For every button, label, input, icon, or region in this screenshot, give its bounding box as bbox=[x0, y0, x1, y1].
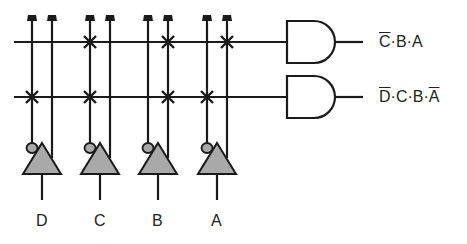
arrow-cap-icon bbox=[27, 15, 37, 21]
arrow-cap-icon bbox=[85, 15, 95, 21]
arrow-cap-icon bbox=[143, 15, 153, 21]
and-gate-icon bbox=[287, 21, 335, 63]
term-mid: ·C·B· bbox=[391, 88, 429, 105]
input-label-b: B bbox=[152, 213, 163, 229]
input-label-d: D bbox=[36, 213, 48, 229]
arrow-cap-icon bbox=[47, 15, 57, 21]
arrow-cap-icon bbox=[163, 15, 173, 21]
term-d-bar: D bbox=[379, 88, 391, 105]
output-label-row1: C·B·A bbox=[379, 33, 423, 51]
arrow-cap-icon bbox=[105, 15, 115, 21]
output-label-row2: D·C·B·A bbox=[379, 88, 439, 106]
term-a-bar: A bbox=[429, 88, 440, 105]
term-rest: ·B·A bbox=[391, 33, 423, 50]
input-label-c: C bbox=[94, 213, 106, 229]
input-label-a: A bbox=[211, 213, 222, 229]
term-c-bar: C bbox=[379, 33, 391, 50]
arrow-cap-icon bbox=[222, 15, 232, 21]
and-gate-icon bbox=[287, 76, 335, 118]
arrow-cap-icon bbox=[202, 15, 212, 21]
